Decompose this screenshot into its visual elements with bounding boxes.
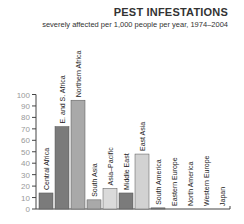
y-tick-label: 0 <box>26 205 31 214</box>
category-label: Japan <box>219 187 227 206</box>
bar <box>119 193 133 209</box>
bar <box>87 200 101 209</box>
category-label: E. and S. Africa <box>59 75 66 123</box>
y-tick-label: 70 <box>21 125 30 134</box>
category-label: South America <box>155 159 162 205</box>
category-label: Central Africa <box>43 148 50 190</box>
bar <box>55 127 69 209</box>
category-label: Northern Africa <box>75 50 82 97</box>
category-label: Asia–Pacific <box>107 147 114 186</box>
bar <box>71 100 85 209</box>
y-tick-label: 10 <box>21 194 30 203</box>
category-label: East Asia <box>139 122 146 151</box>
bar-chart: 0102030405060708090100 Central AfricaE. … <box>0 0 244 224</box>
y-tick-label: 60 <box>21 136 30 145</box>
category-label: Eastern Europe <box>171 157 179 206</box>
y-tick-label: 20 <box>21 182 30 191</box>
bar <box>135 154 149 209</box>
bar <box>39 193 53 209</box>
y-tick-label: 50 <box>21 148 30 157</box>
bar <box>103 188 117 209</box>
y-tick-label: 30 <box>21 171 30 180</box>
category-label: South Asia <box>91 163 98 197</box>
category-label: Western Europe <box>203 155 211 206</box>
y-tick-label: 80 <box>21 113 30 122</box>
y-tick-label: 90 <box>21 102 30 111</box>
y-tick-label: 100 <box>17 91 31 100</box>
bar <box>151 208 165 209</box>
category-label: North America <box>187 162 194 206</box>
category-label: Middle East <box>123 153 130 190</box>
y-tick-label: 40 <box>21 159 30 168</box>
